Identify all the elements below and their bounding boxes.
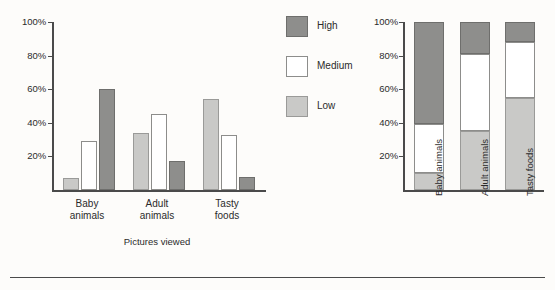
y-axis-tick-label: 80%: [4, 50, 46, 61]
y-axis-tick: [48, 22, 52, 23]
legend-label: Low: [317, 100, 335, 111]
y-axis: [52, 22, 54, 191]
bar-high: [239, 177, 255, 190]
bar-low: [63, 178, 79, 190]
y-axis-tick: [48, 89, 52, 90]
x-axis-category-label: Baby animals: [433, 139, 444, 196]
x-axis-category-label: Tasty foods: [524, 148, 535, 196]
bar-medium: [221, 135, 237, 190]
x-axis-category-label: Tasty foods: [186, 198, 268, 221]
bar-low: [133, 133, 149, 190]
y-axis-tick-label: 60%: [4, 83, 46, 94]
y-axis: [403, 22, 405, 191]
y-axis-tick-label: 40%: [4, 117, 46, 128]
bar-high: [99, 89, 115, 190]
y-axis-tick-label: 80%: [368, 50, 398, 61]
stack-segment-high: [414, 22, 444, 124]
legend-swatch-high-icon: [286, 16, 308, 37]
y-axis-tick-label: 60%: [368, 83, 398, 94]
legend-item-high: High: [286, 16, 376, 38]
legend-item-medium: Medium: [286, 56, 376, 78]
bar-medium: [81, 141, 97, 190]
legend-label: High: [317, 20, 338, 31]
x-axis-title: Pictures viewed: [52, 236, 262, 247]
stacked-bar-chart: 100%80%60%40%20%Baby animalsAdult animal…: [368, 0, 555, 290]
y-axis-tick-label: 100%: [368, 16, 398, 27]
y-axis-tick: [48, 56, 52, 57]
y-axis-tick: [399, 56, 403, 57]
stack-segment-high: [505, 22, 535, 42]
y-axis-tick: [48, 156, 52, 157]
footer-divider: [10, 277, 545, 278]
y-axis-tick-label: 20%: [4, 150, 46, 161]
y-axis-tick: [399, 22, 403, 23]
stack-segment-medium: [460, 54, 490, 131]
x-axis: [403, 190, 544, 192]
y-axis-tick-label: 20%: [368, 150, 398, 161]
x-axis-category-label: Adult animals: [479, 139, 490, 196]
y-axis-tick-label: 40%: [368, 117, 398, 128]
bar-medium: [151, 114, 167, 190]
y-axis-tick: [48, 123, 52, 124]
x-axis: [52, 190, 266, 192]
figure-canvas: 100%80%60%40%20%Baby animalsAdult animal…: [0, 0, 555, 290]
y-axis-tick: [399, 123, 403, 124]
y-axis-tick-label: 100%: [4, 16, 46, 27]
y-axis-tick: [399, 89, 403, 90]
y-axis-tick: [399, 156, 403, 157]
legend-swatch-low-icon: [286, 96, 308, 117]
bar-high: [169, 161, 185, 190]
legend-item-low: Low: [286, 96, 376, 118]
grouped-bar-chart: 100%80%60%40%20%Baby animalsAdult animal…: [0, 0, 275, 250]
legend-label: Medium: [317, 60, 353, 71]
legend-swatch-medium-icon: [286, 56, 308, 77]
stack-segment-high: [460, 22, 490, 54]
bar-low: [203, 99, 219, 190]
stack-segment-medium: [505, 42, 535, 97]
